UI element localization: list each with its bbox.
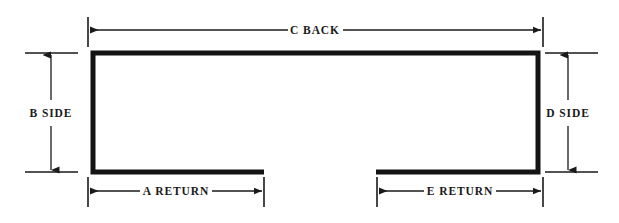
e-return-label: E RETURN: [427, 185, 493, 197]
dimension-c-back: C BACK: [88, 17, 543, 47]
d-side-label: D SIDE: [546, 107, 589, 119]
c-channel-profile: [93, 53, 538, 172]
b-side-label: B SIDE: [30, 107, 73, 119]
dimension-d-side: D SIDE: [545, 53, 598, 172]
c-channel-outline: [93, 53, 538, 172]
c-back-label: C BACK: [290, 24, 340, 36]
dimension-diagram: C BACK B SIDE D SIDE A RETURN: [0, 0, 619, 223]
dimension-a-return: A RETURN: [88, 177, 264, 207]
diagram-canvas: C BACK B SIDE D SIDE A RETURN: [0, 0, 619, 223]
dimension-e-return: E RETURN: [377, 177, 543, 207]
dimension-b-side: B SIDE: [25, 53, 78, 172]
a-return-label: A RETURN: [143, 185, 209, 197]
